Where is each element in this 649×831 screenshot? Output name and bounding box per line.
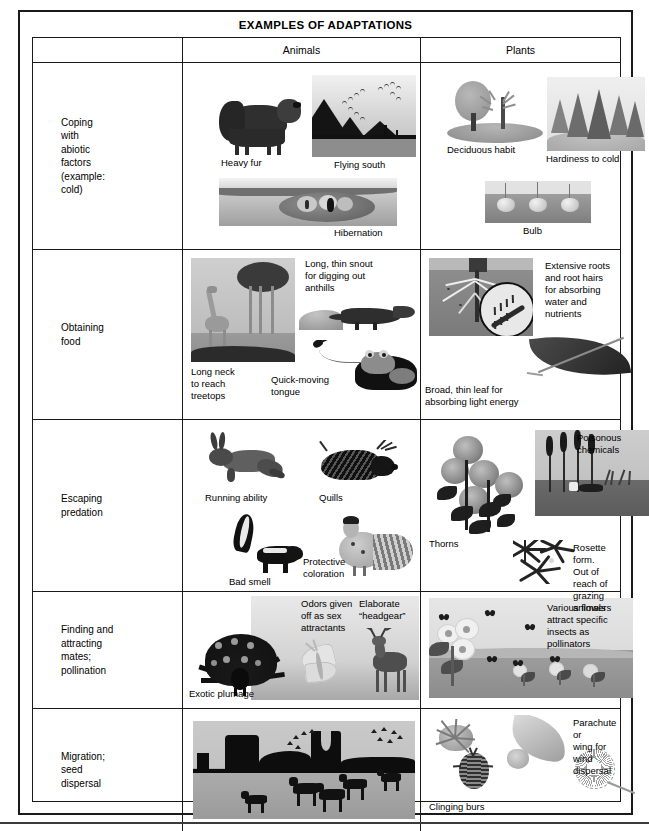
- running-horses-illustration: [193, 721, 415, 819]
- caption-poisonous-chemicals: Poisonous chemicals: [577, 432, 621, 456]
- caption-quills: Quills: [319, 492, 343, 504]
- table-row: Obtaining food Long neck to reach treeto: [33, 250, 620, 420]
- row-category-cell: Finding and attracting mates; pollinatio…: [33, 592, 183, 708]
- conifer-forest-illustration: [547, 77, 645, 151]
- row-category-label: Finding and attracting mates; pollinatio…: [61, 623, 113, 677]
- giraffe-illustration: [191, 258, 295, 362]
- broad-leaf-illustration: [525, 326, 635, 388]
- table-row: Migration; seed dispersal: [33, 709, 620, 831]
- row-category-label: Migration; seed dispersal: [61, 750, 105, 791]
- caption-flying-south: Flying south: [334, 159, 385, 171]
- adaptations-figure: EXAMPLES OF ADAPTATIONS Animals Plants C…: [18, 10, 633, 815]
- row-animals-cell: Long neck to reach treetops Long, thin s…: [183, 250, 421, 419]
- caption-bulb: Bulb: [523, 225, 542, 237]
- antlered-deer-illustration: [355, 628, 417, 696]
- row-category-cell: Obtaining food: [33, 250, 183, 419]
- caption-odors-sex-attractants: Odors given off as sex attractants: [301, 598, 352, 634]
- jackrabbit-illustration: [205, 430, 291, 486]
- caption-hibernation: Hibernation: [334, 227, 383, 239]
- caption-running-ability: Running ability: [205, 492, 267, 504]
- row-animals-cell: Heavy fur: [183, 63, 421, 249]
- caption-thorns: Thorns: [429, 538, 459, 550]
- caption-clinging-burs: Clinging burs: [429, 801, 484, 813]
- caption-deciduous-habit: Deciduous habit: [447, 144, 515, 156]
- root-system-illustration: [429, 258, 533, 336]
- deciduous-tree-illustration: [447, 79, 543, 143]
- header-cell-category: [33, 38, 183, 62]
- page-bottom-rule: [0, 822, 649, 824]
- caption-broad-thin-leaf: Broad, thin leaf for absorbing light ene…: [425, 384, 518, 408]
- burs-illustration: [431, 719, 509, 799]
- row-category-cell: Migration; seed dispersal: [33, 709, 183, 831]
- table-row: Escaping predation Running ability: [33, 420, 620, 592]
- table-header-row: Animals Plants: [33, 38, 620, 63]
- adaptations-table: Animals Plants Coping with abiotic facto…: [32, 37, 621, 802]
- caption-extensive-roots: Extensive roots and root hairs for absor…: [545, 260, 620, 320]
- caption-long-neck: Long neck to reach treetops: [191, 366, 235, 402]
- caption-long-thin-snout: Long, thin snout for digging out anthill…: [305, 258, 373, 294]
- caption-quick-moving-tongue: Quick-moving tongue: [271, 374, 329, 398]
- caption-various-flowers: Various flowers attract specific insects…: [547, 602, 611, 650]
- peacock-illustration: [189, 598, 293, 698]
- row-animals-cell: [183, 709, 421, 831]
- bulbs-illustration: [485, 181, 591, 223]
- header-cell-plants: Plants: [421, 38, 620, 62]
- row-plants-cell: Deciduous habit Hardiness to cold: [421, 63, 620, 249]
- rose-bush-illustration: [435, 430, 535, 536]
- row-category-label: Obtaining food: [61, 321, 104, 348]
- porcupine-illustration: [319, 440, 401, 486]
- flying-south-illustration: [312, 75, 416, 157]
- table-row: Finding and attracting mates; pollinatio…: [33, 592, 620, 709]
- bison-illustration: [219, 93, 305, 155]
- page-title: EXAMPLES OF ADAPTATIONS: [239, 19, 412, 31]
- skunk-illustration: [231, 514, 305, 574]
- caption-elaborate-headgear: Elaborate “headgear”: [359, 598, 405, 622]
- caption-heavy-fur: Heavy fur: [221, 157, 262, 169]
- row-category-label: Coping with abiotic factors (example: co…: [61, 116, 105, 197]
- caption-hardiness-to-cold: Hardiness to cold: [546, 153, 619, 165]
- caption-protective-coloration: Protective coloration: [303, 556, 345, 580]
- row-category-cell: Coping with abiotic factors (example: co…: [33, 63, 183, 249]
- anteater-illustration: [299, 300, 415, 332]
- caption-exotic-plumage: Exotic plumage: [189, 688, 254, 700]
- table-row: Coping with abiotic factors (example: co…: [33, 63, 620, 250]
- figure-title-bar: EXAMPLES OF ADAPTATIONS: [20, 12, 631, 37]
- row-plants-cell: Extensive roots and root hairs for absor…: [421, 250, 620, 419]
- hibernation-illustration: [219, 178, 397, 226]
- caption-bad-smell: Bad smell: [229, 576, 271, 588]
- row-plants-cell: Thorns Poi: [421, 420, 620, 591]
- row-plants-cell: Clinging burs Parachute or wing for wind…: [421, 709, 620, 831]
- moth-illustration: [293, 636, 355, 692]
- row-animals-cell: Exotic plumage Odors given off as sex at…: [183, 592, 421, 708]
- row-category-label: Escaping predation: [61, 492, 103, 519]
- row-plants-cell: Various flowers attract specific insects…: [421, 592, 620, 708]
- row-animals-cell: Running ability Quills: [183, 420, 421, 591]
- caption-parachute-or-wing: Parachute or wing for wind dispersal: [573, 717, 620, 777]
- row-category-cell: Escaping predation: [33, 420, 183, 591]
- header-cell-animals: Animals: [183, 38, 421, 62]
- winged-seed-illustration: [505, 715, 575, 785]
